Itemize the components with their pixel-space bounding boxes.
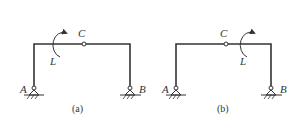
label-l: L [239,55,246,67]
label-b: B [280,83,287,95]
panel-a: A B C L (a) [19,27,146,115]
label-b: B [139,83,146,95]
label-l: L [49,55,56,67]
hinge-c-icon [82,42,86,46]
three-hinged-frame-diagrams: A B C L (a) A B [0,0,302,120]
label-c: C [78,27,86,39]
label-a: A [19,83,27,95]
frame-a [34,44,130,90]
panel-b: A B C L (b) [161,27,287,115]
pin-support-b-icon [120,86,141,99]
caption-b: (b) [217,103,229,115]
pin-support-a-icon [24,86,44,99]
label-a: A [161,83,169,95]
pin-support-a-icon [166,86,186,99]
label-c: C [220,27,228,39]
hinge-c-icon [224,42,228,46]
frame-b [176,44,271,90]
caption-a: (a) [72,103,83,115]
pin-support-b-icon [261,86,282,99]
